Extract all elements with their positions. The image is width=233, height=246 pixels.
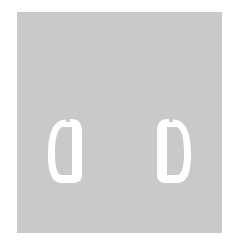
left-ring-shape bbox=[42, 115, 88, 187]
gray-panel: Gray square with two white D-shaped ring… bbox=[17, 12, 222, 233]
right-ring-shape bbox=[151, 115, 197, 187]
